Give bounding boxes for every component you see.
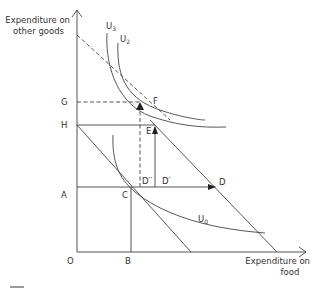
label-C: C: [122, 190, 128, 200]
x-axis-label-line2: food: [281, 267, 300, 277]
footer-marker: [10, 286, 24, 288]
indifference-curve-U2: [118, 43, 205, 120]
arrow-F-head-icon: [136, 102, 144, 110]
indifference-curve-U0: [113, 135, 265, 233]
y-axis-label-line2: other goods: [13, 26, 65, 36]
origin-label: O: [67, 256, 74, 266]
label-D: D: [219, 177, 226, 187]
label-A: A: [61, 190, 67, 200]
diagram-canvas: Expenditure on other goods Expenditure o…: [0, 0, 325, 293]
label-U2: U2: [120, 34, 130, 45]
label-D-double-prime: D′′: [142, 176, 152, 186]
label-D-prime: D′: [162, 176, 171, 186]
label-U3: U3: [106, 21, 116, 32]
label-G: G: [61, 97, 68, 107]
label-U0: U0: [198, 214, 208, 225]
label-F: F: [153, 96, 158, 106]
label-B: B: [125, 256, 131, 266]
label-H: H: [61, 120, 67, 130]
x-axis-label-line1: Expenditure on: [245, 256, 310, 266]
y-axis-label-line1: Expenditure on: [5, 15, 70, 25]
budget-line-initial: [77, 125, 191, 252]
indifference-curve-U3: [107, 33, 226, 127]
label-E: E: [146, 126, 151, 136]
budget-line-dashed: [77, 35, 170, 120]
